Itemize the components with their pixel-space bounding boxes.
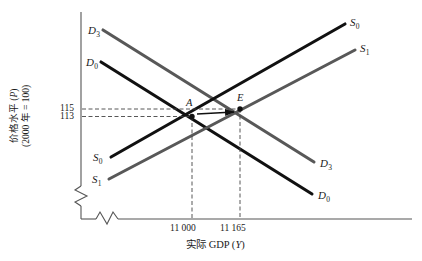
x-axis-title-prefix: 实际 GDP ( (186, 239, 235, 250)
curve-label-supply-original-left: S0 (93, 152, 102, 163)
y-axis-title-suffix: ) (9, 89, 19, 92)
curve-label-supply-shifted-right: S1 (360, 43, 369, 54)
y-axis-break-zigzag (75, 186, 87, 206)
ad-as-figure: 价格水平 (P) (2000 年 = 100) 115 113 11 000 1… (0, 0, 422, 261)
x-axis-break-zigzag (96, 212, 118, 224)
curve-label-text: S (350, 16, 356, 28)
curve-label-demand-shifted-left: D3 (88, 25, 100, 36)
curve-label-demand-shifted-right: D3 (320, 158, 332, 169)
y-axis-title-line2: (2000 年 = 100) (21, 61, 33, 171)
curve-label-text: S (92, 173, 98, 185)
curve-label-text: S (360, 42, 366, 54)
point-label-e: E (237, 93, 243, 104)
curve-label-subscript: 1 (98, 179, 102, 188)
curve-label-text: S (93, 151, 99, 163)
curve-label-supply-original-right: S0 (350, 17, 359, 28)
curve-label-demand-original-left: D0 (86, 57, 98, 68)
point-label-a: A (186, 98, 192, 109)
curve-label-demand-original-right: D0 (318, 190, 330, 201)
curve-label-subscript: 0 (94, 62, 98, 71)
curve-label-subscript: 0 (99, 157, 103, 166)
curve-label-text: D (318, 189, 326, 201)
curve-label-text: D (88, 24, 96, 36)
curve-label-text: D (86, 56, 94, 68)
curve-label-subscript: 1 (366, 48, 370, 57)
chart-canvas (0, 0, 422, 261)
curve-label-subscript: 0 (326, 195, 330, 204)
point-dot-a (189, 114, 194, 119)
y-axis-title: 价格水平 (P) (2000 年 = 100) (9, 61, 33, 171)
y-axis-title-variable: P (9, 92, 19, 98)
x-tick-label-11000: 11 000 (170, 224, 196, 234)
curve-supply-shifted (109, 50, 355, 179)
x-axis-title-suffix: ) (241, 239, 245, 250)
shift-arrow (197, 112, 234, 114)
curve-label-subscript: 3 (96, 30, 100, 39)
curve-label-supply-shifted-left: S1 (92, 174, 101, 185)
x-axis-title: 实际 GDP (Y) (186, 240, 245, 251)
x-tick-label-11165: 11 165 (220, 224, 246, 234)
curve-label-subscript: 0 (356, 22, 360, 31)
curve-label-text: D (320, 157, 328, 169)
y-axis-title-prefix: 价格水平 ( (9, 98, 19, 144)
curve-label-subscript: 3 (328, 163, 332, 172)
y-tick-label-113: 113 (60, 112, 74, 122)
y-axis-title-line1: 价格水平 (P) (9, 61, 21, 171)
point-dot-e (237, 106, 242, 111)
